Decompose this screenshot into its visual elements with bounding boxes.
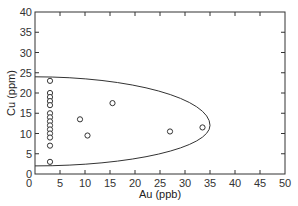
y-tick-label: 15 bbox=[20, 107, 32, 119]
data-point bbox=[47, 78, 52, 83]
y-tick-label: 5 bbox=[26, 148, 32, 160]
x-tick-label: 0 bbox=[26, 177, 32, 189]
x-tick-label: 40 bbox=[229, 177, 241, 189]
y-axis-label: Cu (ppm) bbox=[5, 70, 17, 116]
y-tick-label: 30 bbox=[20, 47, 32, 59]
x-tick-label: 15 bbox=[104, 177, 116, 189]
envelope-curve bbox=[35, 77, 210, 166]
x-tick-label: 50 bbox=[279, 177, 291, 189]
y-tick-label: 40 bbox=[20, 6, 32, 18]
data-point bbox=[85, 133, 90, 138]
x-tick-label: 10 bbox=[79, 177, 91, 189]
x-tick-label: 5 bbox=[57, 177, 63, 189]
y-tick-label: 10 bbox=[20, 128, 32, 140]
x-tick-label: 35 bbox=[204, 177, 216, 189]
x-axis-label: Au (ppb) bbox=[139, 188, 181, 200]
y-axis-ticks: 0510152025303540 bbox=[20, 6, 285, 180]
data-point bbox=[77, 117, 82, 122]
data-points bbox=[47, 78, 205, 164]
data-point bbox=[47, 159, 52, 164]
data-point bbox=[167, 129, 172, 134]
y-tick-label: 35 bbox=[20, 26, 32, 38]
plot-frame bbox=[35, 12, 285, 174]
y-tick-label: 25 bbox=[20, 67, 32, 79]
data-point bbox=[47, 143, 52, 148]
x-tick-label: 45 bbox=[254, 177, 266, 189]
x-axis-ticks: 05101520253035404550 bbox=[26, 12, 291, 189]
y-tick-label: 20 bbox=[20, 87, 32, 99]
data-point bbox=[47, 135, 52, 140]
data-point bbox=[200, 125, 205, 130]
data-point bbox=[110, 101, 115, 106]
data-point bbox=[47, 103, 52, 108]
scatter-chart: 0510152025303540 05101520253035404550 Au… bbox=[0, 0, 298, 206]
